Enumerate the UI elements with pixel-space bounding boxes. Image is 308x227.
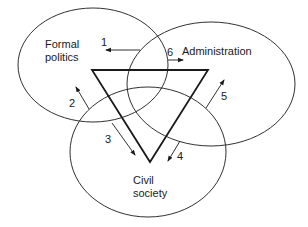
- formal-politics-label-line1: Formal: [45, 38, 79, 50]
- arrow-2-number: 2: [69, 97, 75, 109]
- civil-society-label-line2: society: [133, 187, 168, 199]
- arrow-6-number: 6: [167, 46, 173, 58]
- arrow-1-number: 1: [101, 36, 107, 48]
- diagram-canvas: Formal politics Administration Civil soc…: [0, 0, 308, 227]
- arrow-2: [76, 87, 89, 109]
- administration-ellipse: [127, 22, 295, 146]
- arrow-4-number: 4: [177, 150, 183, 162]
- formal-politics-label-line2: politics: [45, 51, 79, 63]
- administration-label: Administration: [182, 45, 252, 57]
- venn-triangle-diagram: Formal politics Administration Civil soc…: [0, 0, 308, 227]
- civil-society-label-line1: Civil: [133, 174, 154, 186]
- arrow-5-number: 5: [221, 90, 227, 102]
- arrow-3-number: 3: [105, 133, 111, 145]
- inverted-triangle: [92, 70, 208, 162]
- arrow-3: [112, 123, 135, 155]
- formal-politics-ellipse: [18, 8, 168, 122]
